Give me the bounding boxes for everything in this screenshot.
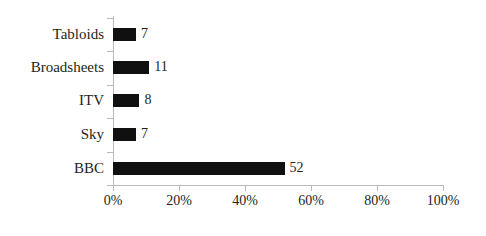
x-axis-tick [179, 185, 180, 191]
x-tick-label-100: 100% [413, 193, 473, 209]
x-axis-tick [377, 185, 378, 191]
bar-chart: Tabloids 7 Broadsheets 11 ITV 8 Sky 7 BB… [0, 0, 486, 236]
bar-value-broadsheets: 11 [154, 60, 167, 74]
category-label-tabloids: Tabloids [0, 27, 104, 42]
bar-value-tabloids: 7 [141, 27, 148, 41]
x-axis-tick [443, 185, 444, 191]
x-tick-label-0: 0% [83, 193, 143, 209]
x-tick-label-40: 40% [215, 193, 275, 209]
bar-row-itv: ITV 8 [0, 85, 486, 118]
bar-row-sky: Sky 7 [0, 118, 486, 151]
x-axis-tick [245, 185, 246, 191]
bar-broadsheets [113, 61, 149, 74]
x-tick-label-80: 80% [347, 193, 407, 209]
x-axis-tick [113, 185, 114, 191]
category-label-itv: ITV [0, 93, 104, 108]
bar-sky [113, 128, 136, 141]
x-axis-tick [311, 185, 312, 191]
bar-value-sky: 7 [141, 127, 148, 141]
x-tick-label-60: 60% [281, 193, 341, 209]
category-label-broadsheets: Broadsheets [0, 60, 104, 75]
bar-bbc [113, 162, 285, 175]
bar-tabloids [113, 28, 136, 41]
bar-row-broadsheets: Broadsheets 11 [0, 51, 486, 84]
bar-itv [113, 94, 139, 107]
bar-row-tabloids: Tabloids 7 [0, 18, 486, 51]
bar-value-itv: 8 [144, 93, 151, 107]
category-label-bbc: BBC [0, 161, 104, 176]
bar-value-bbc: 52 [290, 161, 304, 175]
bar-row-bbc: BBC 52 [0, 152, 486, 185]
category-label-sky: Sky [0, 127, 104, 142]
x-tick-label-20: 20% [149, 193, 209, 209]
